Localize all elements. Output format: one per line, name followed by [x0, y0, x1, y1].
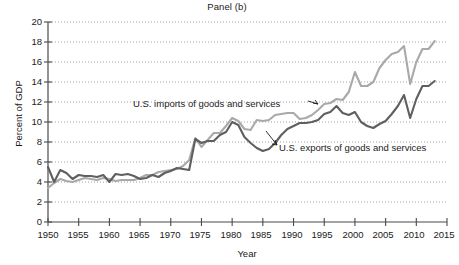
axis-ticks — [44, 22, 447, 226]
series-line-imports — [48, 41, 435, 188]
series-line-exports — [48, 81, 435, 182]
gridlines — [49, 22, 447, 202]
annotation-pointer-exports — [266, 131, 277, 145]
